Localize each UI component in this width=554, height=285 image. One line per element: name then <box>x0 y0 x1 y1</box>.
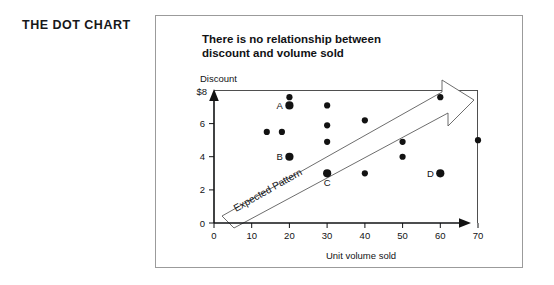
x-axis-ticks: 0 10 20 30 40 50 60 70 <box>211 223 483 241</box>
data-point <box>436 169 444 177</box>
chart-panel: There is no relationship between discoun… <box>155 15 523 268</box>
data-point-label-b: B <box>277 151 283 162</box>
x-tick-60: 60 <box>435 230 446 241</box>
data-point <box>399 154 405 160</box>
page-title: THE DOT CHART <box>22 18 131 32</box>
data-point <box>324 102 330 108</box>
y-tick-4: 4 <box>200 151 205 162</box>
data-point <box>279 129 285 135</box>
data-point <box>264 129 270 135</box>
x-tick-20: 20 <box>284 230 295 241</box>
x-tick-50: 50 <box>397 230 408 241</box>
expected-pattern-arrow <box>222 80 474 228</box>
y-tick-8: $8 <box>196 86 207 97</box>
data-point <box>324 139 330 145</box>
data-point <box>323 169 331 177</box>
data-point <box>286 94 292 100</box>
data-point-label-a: A <box>277 100 284 111</box>
y-axis <box>209 89 219 223</box>
y-axis-ticks: 0 2 4 6 $8 <box>196 86 214 229</box>
data-point <box>475 137 481 143</box>
y-tick-0: 0 <box>200 218 205 229</box>
scatter-plot: 0 2 4 6 $8 0 10 20 30 40 5 <box>156 16 524 269</box>
data-point <box>362 117 368 123</box>
data-point-label-c: C <box>324 177 331 188</box>
screenshot-root: THE DOT CHART There is no relationship b… <box>0 0 554 285</box>
y-tick-6: 6 <box>200 118 205 129</box>
data-point <box>324 122 330 128</box>
x-tick-70: 70 <box>473 230 484 241</box>
data-point <box>285 101 293 109</box>
data-point <box>437 94 443 100</box>
x-axis <box>214 218 471 228</box>
x-tick-40: 40 <box>360 230 371 241</box>
data-point-label-d: D <box>427 168 434 179</box>
data-point <box>285 153 293 161</box>
data-point <box>399 139 405 145</box>
x-tick-10: 10 <box>246 230 257 241</box>
x-tick-0: 0 <box>211 230 216 241</box>
x-tick-30: 30 <box>322 230 333 241</box>
y-tick-2: 2 <box>200 184 205 195</box>
data-point <box>362 170 368 176</box>
